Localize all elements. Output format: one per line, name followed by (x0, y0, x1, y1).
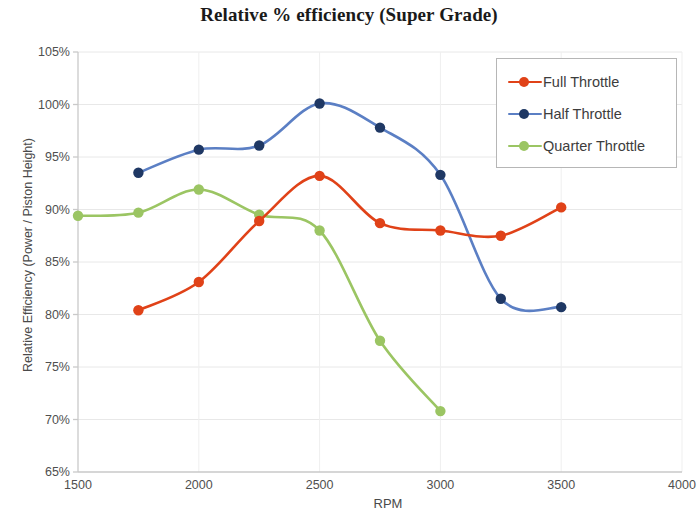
data-point-marker (194, 144, 204, 154)
y-axis-tick-label: 85% (18, 255, 70, 269)
data-point-marker (375, 122, 385, 132)
x-axis-tick-labels: 150020002500300035004000 (78, 478, 682, 496)
legend-item-label: Quarter Throttle (543, 138, 645, 154)
data-point-marker (314, 171, 324, 181)
data-point-marker (556, 202, 566, 212)
data-point-marker (73, 211, 83, 221)
data-point-marker (254, 216, 264, 226)
x-axis-tick-label: 2500 (285, 478, 355, 492)
data-point-marker (314, 225, 324, 235)
chart-title: Relative % efficiency (Super Grade) (0, 4, 698, 26)
legend-series-marker-icon (508, 140, 542, 152)
y-axis-tick-label: 70% (18, 413, 70, 427)
legend-item-label: Half Throttle (543, 106, 622, 122)
data-point-marker (133, 168, 143, 178)
data-point-marker (556, 302, 566, 312)
data-point-marker (194, 184, 204, 194)
data-point-marker (375, 218, 385, 228)
legend-series-marker-icon (508, 76, 542, 88)
data-point-marker (314, 98, 324, 108)
y-axis-tick-label: 90% (18, 203, 70, 217)
data-point-marker (435, 225, 445, 235)
y-axis-tick-label: 100% (18, 98, 70, 112)
y-axis-tick-label: 95% (18, 150, 70, 164)
x-axis-tick-label: 4000 (647, 478, 698, 492)
y-axis-tick-label: 105% (18, 45, 70, 59)
x-axis-title: RPM (78, 496, 698, 511)
data-point-marker (133, 207, 143, 217)
data-point-marker (496, 231, 506, 241)
efficiency-line-chart: Relative % efficiency (Super Grade) Rela… (0, 0, 698, 519)
y-axis-tick-label: 75% (18, 360, 70, 374)
x-axis-tick-label: 2000 (164, 478, 234, 492)
data-point-marker (435, 406, 445, 416)
y-axis-tick-label: 80% (18, 308, 70, 322)
y-axis-tick-labels: 65%70%75%80%85%90%95%100%105% (14, 52, 70, 472)
data-point-marker (375, 336, 385, 346)
x-axis-tick-label: 3000 (405, 478, 475, 492)
data-point-marker (194, 277, 204, 287)
x-axis-tick-label: 1500 (43, 478, 113, 492)
series-line (138, 176, 561, 310)
data-point-marker (254, 140, 264, 150)
legend-item-label: Full Throttle (543, 74, 619, 90)
data-point-marker (435, 170, 445, 180)
data-point-marker (133, 305, 143, 315)
y-axis-tick-label: 65% (18, 465, 70, 479)
chart-legend: Full ThrottleHalf ThrottleQuarter Thrott… (496, 58, 677, 168)
legend-series-marker-icon (508, 108, 542, 120)
legend-item-quarter-throttle[interactable]: Quarter Throttle (497, 130, 676, 162)
x-axis-tick-label: 3500 (526, 478, 596, 492)
legend-item-half-throttle[interactable]: Half Throttle (497, 98, 676, 130)
legend-item-full-throttle[interactable]: Full Throttle (497, 66, 676, 98)
data-point-marker (496, 294, 506, 304)
